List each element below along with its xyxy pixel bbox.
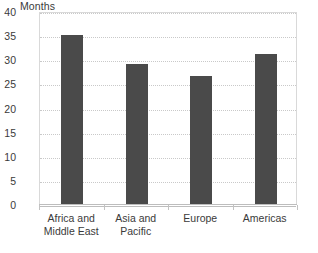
- y-axis-tick-label: 20: [0, 103, 16, 115]
- x-axis-category-label: Asia andPacific: [104, 212, 169, 238]
- bar: [255, 54, 277, 204]
- y-axis-tick-label: 0: [0, 199, 16, 211]
- category-label-line: Pacific: [104, 225, 169, 238]
- bar: [61, 35, 83, 204]
- x-axis-category-label: Americas: [233, 212, 298, 225]
- y-axis-tick-label: 25: [0, 78, 16, 90]
- y-axis-tick-label: 15: [0, 127, 16, 139]
- x-axis-tick: [39, 205, 40, 210]
- bar-chart: Months 4035302520151050 Africa andMiddle…: [0, 0, 318, 253]
- y-axis-tick-label: 10: [0, 151, 16, 163]
- category-label-line: Asia and: [104, 212, 169, 225]
- x-axis-tick: [104, 205, 105, 210]
- gridline: [40, 13, 296, 14]
- category-label-line: Europe: [168, 212, 233, 225]
- y-axis-tick-label: 40: [0, 6, 16, 18]
- plot-area: [39, 12, 297, 205]
- y-axis-tick-label: 30: [0, 54, 16, 66]
- y-axis-tick-label: 5: [0, 175, 16, 187]
- y-axis-title: Months: [20, 0, 55, 12]
- x-axis-category-label: Africa andMiddle East: [39, 212, 104, 238]
- y-axis-tick-label: 35: [0, 30, 16, 42]
- bar: [126, 64, 148, 204]
- x-axis-tick: [233, 205, 234, 210]
- x-axis-tick: [297, 205, 298, 210]
- bar: [190, 76, 212, 204]
- x-axis-tick: [168, 205, 169, 210]
- category-label-line: Africa and: [39, 212, 104, 225]
- category-label-line: Americas: [233, 212, 298, 225]
- x-axis-category-label: Europe: [168, 212, 233, 225]
- category-label-line: Middle East: [39, 225, 104, 238]
